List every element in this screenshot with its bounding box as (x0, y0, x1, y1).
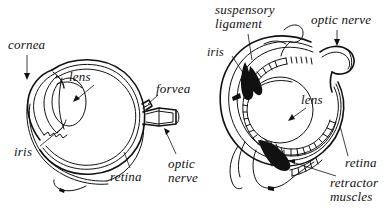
label-lens-right: lens (301, 93, 323, 107)
retina-pointer-left (124, 152, 130, 168)
iris-pointer-left (40, 128, 62, 146)
label-optic-nerve-left: optic nerve (168, 157, 198, 184)
label-retina-right: retina (345, 156, 377, 170)
optic-nerve-pointer-left (164, 128, 176, 154)
label-suspensory-ligament: suspensory ligament (215, 3, 275, 30)
optic-nerve-pointer-right (334, 30, 340, 46)
label-lens-left: lens (69, 70, 91, 84)
right-eye-drawing (220, 25, 354, 191)
cornea-pointer (24, 55, 30, 80)
retina-pointer-right (340, 126, 348, 156)
label-optic-nerve-right: optic nerve (311, 13, 371, 27)
label-retractor-muscles: retractor muscles (330, 176, 378, 203)
label-cornea: cornea (8, 38, 45, 52)
label-retina-left: retina (110, 170, 142, 184)
label-iris-right: iris (207, 46, 224, 59)
label-forvea: forvea (156, 82, 190, 96)
left-eye-drawing (24, 55, 179, 193)
label-iris-left: iris (14, 145, 32, 159)
eye-anatomy-figure: cornea lens iris forvea retina optic ner… (0, 0, 391, 214)
suspensory-ligament-pointer (248, 34, 252, 60)
